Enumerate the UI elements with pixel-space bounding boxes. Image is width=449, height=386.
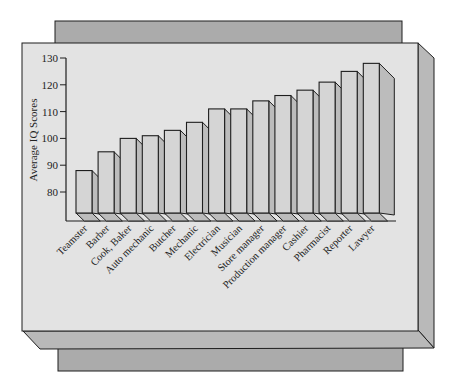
back-panel-top	[55, 21, 402, 45]
bar-side	[379, 63, 394, 215]
bar-front	[253, 101, 269, 213]
bar-front	[231, 109, 247, 213]
bar-front	[297, 90, 313, 213]
bar	[363, 63, 394, 221]
bar-front	[319, 82, 335, 213]
y-tick-label: 100	[42, 132, 59, 144]
bar-front	[275, 96, 291, 213]
bar-front	[363, 63, 379, 213]
y-tick-label: 120	[42, 79, 59, 91]
bar-front	[142, 136, 158, 213]
bar-front	[187, 122, 203, 213]
y-tick-label: 110	[42, 106, 59, 118]
iq-scores-chart: 8090100110120130 TeamsterBarberCook, Bak…	[0, 0, 449, 386]
panel-right-side	[418, 43, 434, 348]
bar-front	[341, 71, 357, 213]
bar-front	[120, 138, 136, 213]
y-tick-label: 90	[47, 159, 59, 171]
y-tick-label: 80	[47, 186, 59, 198]
bar-front	[76, 171, 92, 213]
bar-front	[164, 130, 180, 213]
bar-front	[209, 109, 225, 213]
panel-bottom-side	[23, 330, 434, 349]
y-tick-label: 130	[42, 52, 59, 64]
bar-front	[98, 152, 114, 213]
y-axis-title: Average IQ Scores	[27, 99, 39, 182]
